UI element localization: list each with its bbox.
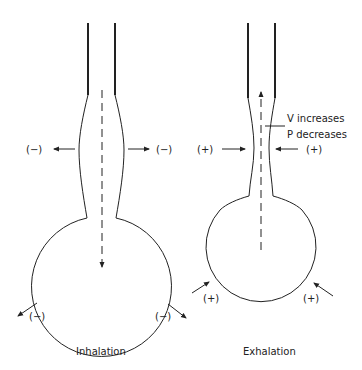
exhalation-annotation-v: V increases [287, 113, 344, 124]
inhalation-bottom-right-label: (−) [155, 311, 171, 322]
exhalation-side-right-label: (+) [306, 144, 322, 155]
exhalation-diagram [192, 23, 333, 302]
inhalation-caption: Inhalation [76, 346, 126, 357]
inhalation-bottom-left-label: (−) [29, 311, 45, 322]
inhalation-diagram [18, 23, 186, 356]
exhalation-bottom-right-label: (+) [303, 293, 319, 304]
inhalation-side-right-label: (−) [156, 144, 172, 155]
exhalation-annotation-p: P decreases [287, 129, 347, 140]
exhalation-bottom-left-inward-arrow-icon [192, 282, 209, 293]
airway-pressure-diagram: (−) (−) (−) (−) Inhalation V increases P… [0, 0, 362, 370]
exhalation-caption: Exhalation [243, 346, 296, 357]
inhalation-side-left-label: (−) [26, 144, 42, 155]
exhalation-bottom-left-label: (+) [203, 293, 219, 304]
exhalation-side-left-label: (+) [197, 144, 213, 155]
